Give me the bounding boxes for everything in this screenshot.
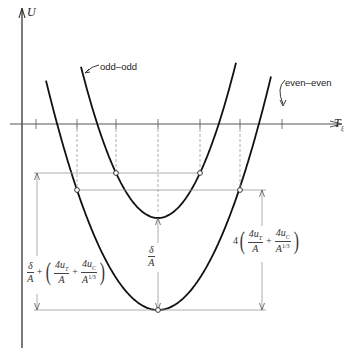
numerator-subscript: C (92, 265, 96, 271)
numerator-subscript: T (65, 266, 68, 272)
term2-fraction: 4uC A1/3 (81, 259, 97, 285)
term1-fraction: 4uT A (248, 229, 263, 254)
x-axis-label: Tξ (334, 117, 344, 132)
numerator-text: 4u (249, 228, 259, 239)
denominator-exponent: 1/3 (282, 243, 290, 249)
fraction-denominator: A1/3 (276, 242, 290, 254)
diagram-canvas (0, 0, 358, 356)
right-paren: ) (293, 229, 298, 252)
x-axis-label-main: T (334, 116, 341, 130)
coefficient: 4 (233, 236, 238, 246)
numerator-text: 4u (82, 258, 92, 269)
plus-sign: + (72, 267, 78, 277)
numerator-subscript: C (286, 234, 290, 240)
data-point-marker (75, 188, 80, 193)
fraction-numerator: δ (148, 245, 155, 257)
odd-odd-label: odd–odd (100, 62, 137, 72)
odd-odd-curve (81, 63, 236, 218)
numerator-subscript: T (259, 235, 262, 241)
numerator-text: 4u (55, 259, 65, 270)
y-axis-label: U (27, 6, 36, 18)
fraction-denominator: A (27, 273, 33, 284)
term1-fraction: 4uT A (54, 260, 69, 285)
left-paren: ( (240, 229, 245, 252)
fraction-denominator: A (59, 274, 65, 285)
fraction-denominator: A1/3 (82, 273, 96, 285)
even-even-label: even–even (285, 78, 331, 88)
fraction-numerator: 4uC (81, 259, 97, 273)
fraction-denominator: A (252, 243, 258, 254)
data-point-marker (114, 171, 119, 176)
data-point-marker (238, 188, 243, 193)
left-gap-formula: δ A + ( 4uT A + 4uC A1/3 ) (26, 259, 107, 285)
right-gap-formula: 4 ( 4uT A + 4uC A1/3 ) (233, 228, 300, 254)
mass-parabola-diagram: U Tξ odd–odd even–even δ A δ A + ( 4uT A… (0, 0, 358, 356)
delta-over-a-annotation: δ A (147, 245, 156, 268)
term2-fraction: 4uC A1/3 (275, 228, 291, 254)
data-point-marker (156, 308, 161, 313)
fraction-numerator: 4uT (54, 260, 69, 274)
fraction-numerator: 4uC (275, 228, 291, 242)
plus-sign: + (266, 236, 272, 246)
numerator-text: 4u (276, 227, 286, 238)
right-paren: ) (100, 260, 105, 283)
x-axis-label-subscript: ξ (341, 124, 344, 132)
delta-over-a-fraction: δ A (148, 245, 155, 268)
fraction-numerator: δ (27, 261, 34, 273)
odd-odd-pointer (86, 65, 99, 72)
plus-sign: + (37, 267, 43, 277)
fraction-denominator: A (148, 257, 154, 268)
denominator-exponent: 1/3 (88, 274, 96, 280)
left-paren: ( (46, 260, 51, 283)
delta-fraction: δ A (27, 261, 34, 284)
data-point-marker (198, 171, 203, 176)
fraction-numerator: 4uT (248, 229, 263, 243)
